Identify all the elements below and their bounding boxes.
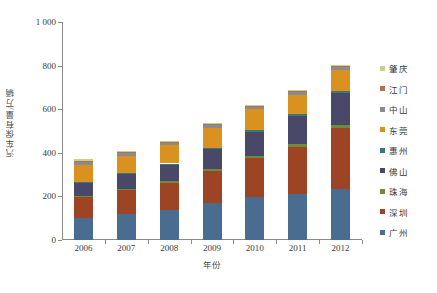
bar-segment[interactable] (160, 210, 179, 240)
bar-segment[interactable] (203, 128, 222, 148)
legend-label: 东莞 (389, 124, 408, 136)
bar-segment[interactable] (331, 93, 350, 125)
bar-segment[interactable] (245, 107, 264, 109)
bar-segment[interactable] (331, 70, 350, 91)
bar-segment[interactable] (288, 144, 307, 147)
legend-item-1[interactable]: 江门 (380, 79, 435, 100)
bars-layer (62, 22, 362, 240)
bar-segment[interactable] (203, 124, 222, 125)
legend-swatch-icon (380, 66, 385, 71)
bar-segment[interactable] (160, 165, 179, 182)
bar-group[interactable] (245, 105, 264, 240)
bar-segment[interactable] (74, 159, 93, 160)
stacked-bar-chart: 汽车保有量/万辆 02004006008001 000 200620072008… (0, 0, 437, 293)
bar-segment[interactable] (117, 152, 136, 154)
y-axis-tick-mark (58, 66, 62, 67)
bar-segment[interactable] (117, 156, 136, 173)
legend-swatch-icon (380, 189, 385, 194)
bar-segment[interactable] (245, 106, 264, 108)
bar-segment[interactable] (203, 169, 222, 171)
bar-segment[interactable] (160, 145, 179, 164)
bar-segment[interactable] (74, 197, 93, 218)
bar-segment[interactable] (245, 158, 264, 197)
bar-segment[interactable] (117, 173, 136, 174)
bar-segment[interactable] (331, 128, 350, 189)
bar-segment[interactable] (74, 162, 93, 165)
bar-segment[interactable] (288, 116, 307, 143)
bar-segment[interactable] (74, 161, 93, 163)
bar-segment[interactable] (288, 147, 307, 194)
legend-item-7[interactable]: 深圳 (380, 202, 435, 223)
bar-segment[interactable] (117, 190, 136, 214)
bar-segment[interactable] (117, 153, 136, 156)
bar-group[interactable] (288, 90, 307, 240)
legend-item-5[interactable]: 佛山 (380, 161, 435, 182)
bar-segment[interactable] (331, 91, 350, 93)
bar-segment[interactable] (245, 156, 264, 159)
bar-segment[interactable] (331, 65, 350, 67)
bar-segment[interactable] (74, 218, 93, 240)
bar-segment[interactable] (74, 183, 93, 196)
legend-item-8[interactable]: 广州 (380, 222, 435, 243)
y-axis-tick-label: 0 (52, 235, 57, 245)
bar-segment[interactable] (160, 181, 179, 183)
bar-segment[interactable] (160, 143, 179, 145)
bar-group[interactable] (74, 159, 93, 240)
bar-group[interactable] (203, 123, 222, 240)
bar-segment[interactable] (203, 171, 222, 203)
bar-segment[interactable] (160, 164, 179, 165)
bar-segment[interactable] (160, 141, 179, 142)
y-axis-tick-label: 1 000 (36, 17, 56, 27)
bar-segment[interactable] (160, 183, 179, 210)
bar-group[interactable] (160, 141, 179, 240)
y-axis-tick-mark (58, 22, 62, 23)
bar-segment[interactable] (74, 165, 93, 182)
bar-segment[interactable] (288, 92, 307, 95)
bar-segment[interactable] (331, 189, 350, 240)
bar-segment[interactable] (288, 90, 307, 92)
bar-segment[interactable] (203, 203, 222, 240)
bar-group[interactable] (117, 151, 136, 240)
bar-segment[interactable] (288, 194, 307, 240)
bar-segment[interactable] (203, 148, 222, 149)
bar-segment[interactable] (288, 90, 307, 91)
bar-segment[interactable] (288, 114, 307, 116)
legend-item-2[interactable]: 中山 (380, 99, 435, 120)
y-axis-tick-mark (58, 109, 62, 110)
bar-segment[interactable] (160, 141, 179, 142)
bar-segment[interactable] (117, 151, 136, 152)
legend-item-4[interactable]: 惠州 (380, 140, 435, 161)
legend-label: 中山 (389, 103, 408, 115)
y-axis-tick-mark (58, 240, 62, 241)
bar-segment[interactable] (245, 197, 264, 240)
legend-item-3[interactable]: 东莞 (380, 120, 435, 141)
bar-segment[interactable] (331, 65, 350, 66)
bar-segment[interactable] (331, 125, 350, 128)
legend-item-6[interactable]: 珠海 (380, 181, 435, 202)
legend-swatch-icon (380, 168, 385, 173)
legend-swatch-icon (380, 107, 385, 112)
bar-segment[interactable] (245, 105, 264, 106)
bar-segment[interactable] (245, 109, 264, 130)
bar-segment[interactable] (74, 196, 93, 197)
bar-segment[interactable] (117, 174, 136, 188)
bar-segment[interactable] (117, 189, 136, 191)
bar-group[interactable] (331, 65, 350, 240)
bar-segment[interactable] (74, 182, 93, 183)
bar-segment[interactable] (245, 132, 264, 156)
bar-segment[interactable] (203, 149, 222, 169)
x-axis-tick-label: 2011 (289, 243, 307, 253)
bar-segment[interactable] (245, 130, 264, 132)
bar-segment[interactable] (203, 123, 222, 124)
bar-segment[interactable] (117, 214, 136, 240)
x-axis-tick-label: 2009 (203, 243, 221, 253)
bar-segment[interactable] (288, 95, 307, 115)
y-axis-tick-label: 600 (43, 104, 57, 114)
bar-segment[interactable] (203, 125, 222, 127)
legend-swatch-icon (380, 209, 385, 214)
legend-item-0[interactable]: 肇庆 (380, 58, 435, 79)
y-axis-tick-label: 800 (43, 61, 57, 71)
legend-label: 江门 (389, 83, 408, 95)
x-axis-tick-label: 2006 (74, 243, 92, 253)
bar-segment[interactable] (331, 67, 350, 70)
